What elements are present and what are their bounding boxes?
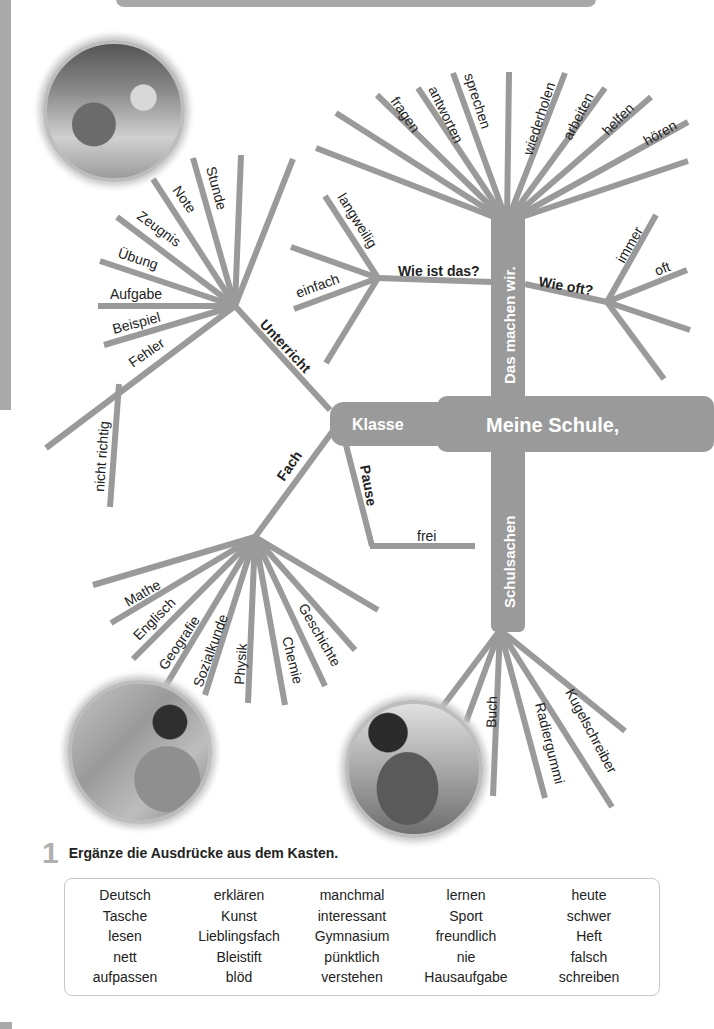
word-box: Deutsch erklären manchmal lernen heute T… bbox=[64, 878, 660, 996]
word-item: Bleistift bbox=[177, 947, 301, 968]
word-item: blöd bbox=[177, 967, 301, 988]
branch-label-das-machen-wir: Das machen wir. bbox=[501, 266, 518, 384]
word-item: nett bbox=[73, 947, 177, 968]
word-item: aufpassen bbox=[73, 967, 177, 988]
exercise-number: 1 bbox=[42, 838, 59, 868]
classroom-children-photo bbox=[43, 40, 185, 182]
word-item: Sport bbox=[403, 906, 529, 927]
exercise-instruction: Ergänze die Ausdrücke aus dem Kasten. bbox=[69, 845, 338, 861]
word-item: schwer bbox=[529, 906, 649, 927]
word-kugelschreiber: Kugelschreiber bbox=[562, 686, 620, 776]
word-hoeren: hören bbox=[641, 117, 680, 149]
word-frei: frei bbox=[417, 528, 436, 544]
boy-at-map-photo bbox=[68, 680, 212, 824]
exercise-heading: 1 Ergänze die Ausdrücke aus dem Kasten. bbox=[42, 838, 338, 868]
branch-label-wie-ist-das: Wie ist das? bbox=[398, 263, 480, 279]
word-nicht-richtig: nicht richtig bbox=[91, 420, 112, 492]
word-item: lernen bbox=[403, 885, 529, 906]
branch-label-unterricht: Unterricht bbox=[257, 316, 315, 376]
word-item: freundlich bbox=[403, 926, 529, 947]
word-item: schreiben bbox=[529, 967, 649, 988]
word-item: Heft bbox=[529, 926, 649, 947]
word-item: falsch bbox=[529, 947, 649, 968]
center-label: Meine Schule, bbox=[486, 414, 619, 436]
word-item: interessant bbox=[301, 906, 403, 927]
page-marker bbox=[0, 1022, 12, 1029]
word-item: lesen bbox=[73, 926, 177, 947]
word-item: verstehen bbox=[301, 967, 403, 988]
word-item: Kunst bbox=[177, 906, 301, 927]
word-item: heute bbox=[529, 885, 649, 906]
word-item: erklären bbox=[177, 885, 301, 906]
word-helfen: helfen bbox=[599, 100, 637, 138]
word-physik: Physik bbox=[231, 642, 250, 685]
branch-label-schulsachen: Schulsachen bbox=[501, 515, 518, 608]
word-item: Tasche bbox=[73, 906, 177, 927]
word-arbeiten: arbeiten bbox=[559, 90, 596, 142]
word-aufgabe: Aufgabe bbox=[110, 286, 162, 302]
friends-hugging-photo bbox=[345, 700, 483, 838]
word-item: nie bbox=[403, 947, 529, 968]
word-item: Hausaufgabe bbox=[403, 967, 529, 988]
word-item: Lieblingsfach bbox=[177, 926, 301, 947]
word-buch: Buch bbox=[483, 696, 500, 728]
word-item: Gymnasium bbox=[301, 926, 403, 947]
word-item: pünktlich bbox=[301, 947, 403, 968]
word-item: manchmal bbox=[301, 885, 403, 906]
klasse-label: Klasse bbox=[352, 416, 404, 433]
word-item: Deutsch bbox=[73, 885, 177, 906]
